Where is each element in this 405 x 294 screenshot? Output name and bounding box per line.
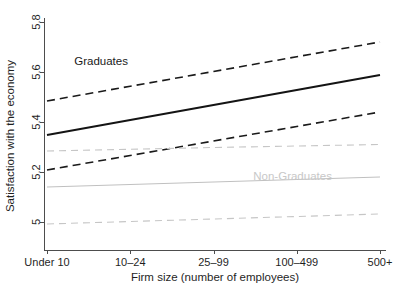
axes-layer: 5.85.65.45.25Under 1010–2425–99100–49950… [4,14,392,283]
series-layer [47,42,380,224]
chart-figure: 5.85.65.45.25Under 1010–2425–99100–49950… [0,0,405,294]
x-tick-label: 10–24 [115,256,146,268]
y-tick-label: 5 [30,219,42,225]
y-axis-title-text: Satisfaction with the economy [4,60,16,212]
series-graduates-lower-ci [47,112,380,170]
series-graduates-fit [47,75,380,135]
annotation-non-graduates: Non-Graduates [253,170,332,182]
x-tick-label: 500+ [368,256,393,268]
x-tick-label: 100–499 [275,256,318,268]
series-graduates-upper-ci [47,42,380,101]
x-tick-label: 25–99 [198,256,229,268]
x-axis-title-text: Firm size (number of employees) [131,271,299,283]
chart-canvas: 5.85.65.45.25Under 1010–2425–99100–49950… [0,0,405,294]
x-tick-label: Under 10 [24,256,69,268]
y-tick-label: 5.2 [30,164,42,179]
y-tick-label: 5.4 [30,114,42,129]
y-tick-label: 5.6 [30,64,42,79]
plot-area [47,42,380,224]
y-tick-label: 5.8 [30,14,42,29]
series-non-graduates-lower-ci [47,214,380,224]
series-non-graduates-upper-ci [47,145,380,152]
annotation-graduates: Graduates [74,55,128,67]
